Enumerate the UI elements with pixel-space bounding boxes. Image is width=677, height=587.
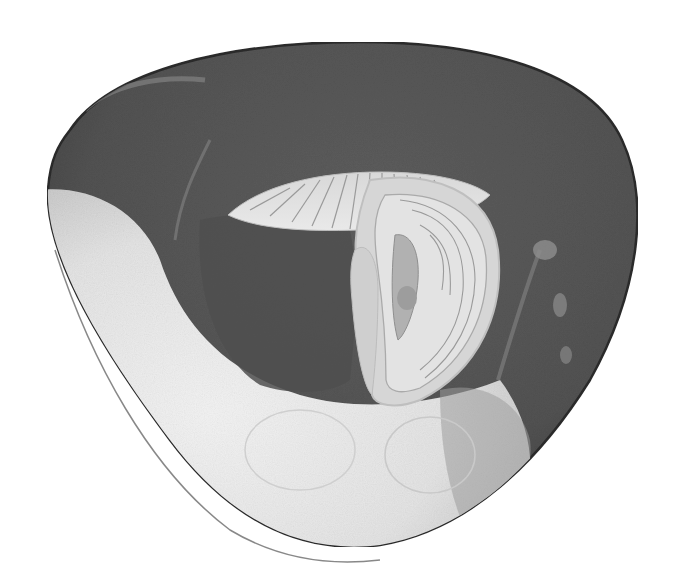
image-stage [0, 0, 677, 587]
specimen-illustration [0, 0, 677, 587]
